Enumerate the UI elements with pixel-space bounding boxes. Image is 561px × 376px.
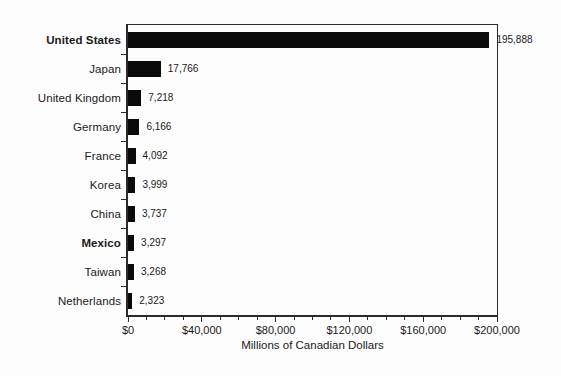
- x-axis-tick-label: $40,000: [162, 324, 242, 336]
- x-axis-major-tick: [275, 317, 276, 322]
- x-axis-tick-label: $160,000: [383, 324, 463, 336]
- x-axis-minor-tick: [146, 317, 147, 320]
- bar: [128, 293, 132, 309]
- category-label: United Kingdom: [0, 83, 121, 112]
- x-axis-minor-tick: [330, 317, 331, 320]
- bar: [128, 90, 141, 106]
- category-label: Germany: [0, 112, 121, 141]
- category-label: Taiwan: [0, 257, 121, 286]
- x-axis-major-tick: [497, 317, 498, 322]
- value-label: 195,888: [496, 25, 532, 54]
- value-label: 2,323: [139, 286, 164, 315]
- x-axis-minor-tick: [238, 317, 239, 320]
- bar: [128, 119, 139, 135]
- value-label: 7,218: [148, 83, 173, 112]
- category-label: Netherlands: [0, 286, 121, 315]
- value-label: 3,297: [141, 228, 166, 257]
- value-label: 6,166: [146, 112, 171, 141]
- x-axis-tick-label: $200,000: [457, 324, 537, 336]
- y-axis-tick: [121, 170, 126, 171]
- x-axis-major-tick: [128, 317, 129, 322]
- x-axis-minor-tick: [386, 317, 387, 320]
- bar: [128, 61, 161, 77]
- y-axis-tick: [121, 54, 126, 55]
- x-axis-minor-tick: [312, 317, 313, 320]
- category-label: China: [0, 199, 121, 228]
- x-axis-minor-tick: [404, 317, 405, 320]
- x-axis-minor-tick: [220, 317, 221, 320]
- y-axis-tick: [121, 112, 126, 113]
- bar-chart: Millions of Canadian Dollars United Stat…: [0, 0, 561, 376]
- x-axis-minor-tick: [367, 317, 368, 320]
- value-label: 4,092: [143, 141, 168, 170]
- value-label: 3,737: [142, 199, 167, 228]
- x-axis-major-tick: [349, 317, 350, 322]
- y-axis-tick: [121, 257, 126, 258]
- x-axis-minor-tick: [294, 317, 295, 320]
- x-axis-minor-tick: [460, 317, 461, 320]
- bar: [128, 235, 134, 251]
- y-axis-tick: [121, 199, 126, 200]
- bar: [128, 206, 135, 222]
- value-label: 3,268: [141, 257, 166, 286]
- y-axis-tick: [121, 228, 126, 229]
- x-axis-tick-label: $120,000: [309, 324, 389, 336]
- x-axis-major-tick: [201, 317, 202, 322]
- y-axis-tick: [121, 83, 126, 84]
- x-axis-minor-tick: [257, 317, 258, 320]
- x-axis-minor-tick: [478, 317, 479, 320]
- y-axis-tick: [121, 141, 126, 142]
- category-label: United States: [0, 25, 121, 54]
- value-label: 3,999: [142, 170, 167, 199]
- category-label: Korea: [0, 170, 121, 199]
- category-label: Japan: [0, 54, 121, 83]
- bar: [128, 148, 136, 164]
- bar: [128, 177, 135, 193]
- category-label: Mexico: [0, 228, 121, 257]
- x-axis-major-tick: [423, 317, 424, 322]
- category-label: France: [0, 141, 121, 170]
- x-axis-title: Millions of Canadian Dollars: [128, 339, 497, 351]
- bar: [128, 264, 134, 280]
- bar: [128, 32, 489, 48]
- y-axis-tick: [121, 286, 126, 287]
- x-axis-tick-label: $0: [88, 324, 168, 336]
- x-axis-tick-label: $80,000: [236, 324, 316, 336]
- x-axis-minor-tick: [183, 317, 184, 320]
- x-axis-minor-tick: [441, 317, 442, 320]
- x-axis-minor-tick: [164, 317, 165, 320]
- value-label: 17,766: [168, 54, 199, 83]
